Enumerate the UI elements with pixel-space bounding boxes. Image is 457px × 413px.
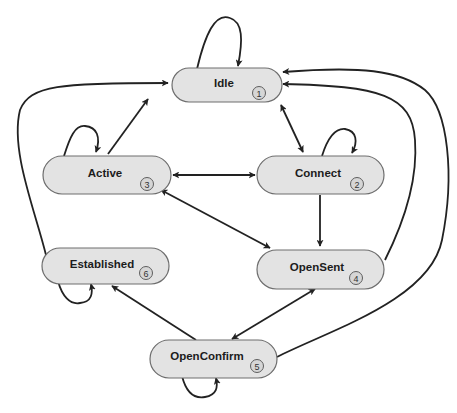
edge-openconfirm-idle	[277, 69, 448, 357]
edge-active-idle	[108, 99, 148, 154]
state-idle-label: Idle	[214, 77, 234, 89]
state-active-number: 3	[144, 180, 149, 190]
state-connect-number: 2	[354, 180, 359, 190]
edge-active-opensent	[161, 190, 270, 248]
state-openconfirm: OpenConfirm 5	[150, 340, 277, 378]
state-connect: Connect 2	[257, 156, 384, 194]
state-opensent-number: 4	[353, 274, 358, 284]
state-established-label: Established	[70, 258, 135, 270]
edge-openconfirm-established	[112, 286, 196, 340]
state-established-number: 6	[143, 269, 148, 279]
edge-openconfirm-self-loop	[182, 376, 217, 397]
state-idle-number: 1	[256, 89, 261, 99]
state-active-label: Active	[88, 167, 123, 179]
state-opensent: OpenSent 4	[257, 250, 384, 289]
state-established: Established 6	[42, 248, 169, 284]
edge-active-self-loop	[64, 126, 98, 156]
state-idle: Idle 1	[172, 68, 282, 102]
state-openconfirm-label: OpenConfirm	[170, 350, 243, 362]
edge-idle-connect	[281, 105, 303, 152]
edge-idle-self-loop	[197, 17, 241, 69]
state-connect-label: Connect	[295, 167, 341, 179]
state-openconfirm-number: 5	[254, 362, 259, 372]
edge-connect-self-loop	[322, 129, 356, 156]
edge-opensent-openconfirm	[232, 289, 315, 339]
bgp-state-diagram: Idle 1 Active 3 Connect 2 Established 6 …	[0, 0, 457, 413]
state-active: Active 3	[43, 156, 171, 194]
state-opensent-label: OpenSent	[290, 261, 344, 273]
